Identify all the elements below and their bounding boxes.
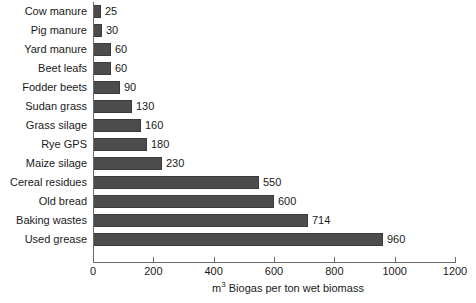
bar-fill	[93, 81, 120, 94]
bar-value-label: 230	[166, 154, 184, 173]
category-label: Used grease	[25, 230, 87, 249]
bar	[93, 176, 259, 189]
bar	[93, 43, 111, 56]
category-label: Rye GPS	[41, 135, 87, 154]
bar	[93, 62, 111, 75]
bar-value-label: 60	[115, 40, 127, 59]
x-tick-label: 600	[265, 264, 283, 278]
bar-value-label: 25	[105, 2, 117, 21]
x-tick	[153, 257, 154, 263]
x-axis-title-text: Biogas per ton wet biomass	[226, 282, 364, 294]
category-label: Fodder beets	[22, 78, 87, 97]
bar-fill	[93, 214, 308, 227]
category-label: Cow manure	[25, 2, 87, 21]
category-label: Old bread	[39, 192, 87, 211]
bar-fill	[93, 43, 111, 56]
bar-fill	[93, 233, 383, 246]
bar-fill	[93, 62, 111, 75]
bar-row: Old bread600	[0, 192, 476, 211]
x-tick-label: 400	[204, 264, 222, 278]
bar	[93, 5, 101, 18]
bar-row: Pig manure30	[0, 21, 476, 40]
x-tick-label: 800	[325, 264, 343, 278]
bar-row: Maize silage230	[0, 154, 476, 173]
category-label: Sudan grass	[25, 97, 87, 116]
bar-fill	[93, 100, 132, 113]
category-label: Baking wastes	[16, 211, 87, 230]
bar-row: Beet leafs60	[0, 59, 476, 78]
x-tick	[395, 257, 396, 263]
x-tick	[274, 257, 275, 263]
bar-row: Yard manure60	[0, 40, 476, 59]
bar-value-label: 550	[263, 173, 281, 192]
bar-row: Sudan grass130	[0, 97, 476, 116]
x-tick-label: 1000	[382, 264, 406, 278]
bar-row: Fodder beets90	[0, 78, 476, 97]
bar-value-label: 160	[145, 116, 163, 135]
category-label: Yard manure	[24, 40, 87, 59]
bar-fill	[93, 176, 259, 189]
y-axis-line	[93, 2, 94, 263]
x-tick-label: 200	[144, 264, 162, 278]
bar	[93, 119, 141, 132]
bar	[93, 214, 308, 227]
bar-fill	[93, 5, 101, 18]
bar-value-label: 60	[115, 59, 127, 78]
bar-fill	[93, 195, 274, 208]
bar-row: Rye GPS180	[0, 135, 476, 154]
bar	[93, 157, 162, 170]
bar-row: Used grease960	[0, 230, 476, 249]
bar-value-label: 960	[387, 230, 405, 249]
category-label: Grass silage	[26, 116, 87, 135]
bar-value-label: 130	[136, 97, 154, 116]
bar	[93, 233, 383, 246]
x-axis-title: m3 Biogas per ton wet biomass	[0, 282, 476, 294]
x-tick	[334, 257, 335, 263]
bar-value-label: 714	[312, 211, 330, 230]
x-tick	[93, 257, 94, 263]
x-tick-label: 1200	[443, 264, 467, 278]
bar-value-label: 600	[278, 192, 296, 211]
bar	[93, 81, 120, 94]
x-axis-title-unit: m	[212, 282, 221, 294]
bar-value-label: 180	[151, 135, 169, 154]
bar	[93, 24, 102, 37]
bar-fill	[93, 24, 102, 37]
x-tick	[214, 257, 215, 263]
x-tick	[455, 257, 456, 263]
category-label: Pig manure	[31, 21, 87, 40]
x-tick-label: 0	[90, 264, 96, 278]
bar	[93, 100, 132, 113]
category-label: Beet leafs	[38, 59, 87, 78]
bar-row: Grass silage160	[0, 116, 476, 135]
bar-row: Baking wastes714	[0, 211, 476, 230]
bar-chart: Cow manure25Pig manure30Yard manure60Bee…	[0, 0, 476, 303]
category-label: Cereal residues	[10, 173, 87, 192]
bar-fill	[93, 119, 141, 132]
bar-value-label: 90	[124, 78, 136, 97]
bar	[93, 138, 147, 151]
category-label: Maize silage	[26, 154, 87, 173]
bar-fill	[93, 157, 162, 170]
bar	[93, 195, 274, 208]
bar-value-label: 30	[106, 21, 118, 40]
bar-row: Cereal residues550	[0, 173, 476, 192]
bar-row: Cow manure25	[0, 2, 476, 21]
bar-fill	[93, 138, 147, 151]
